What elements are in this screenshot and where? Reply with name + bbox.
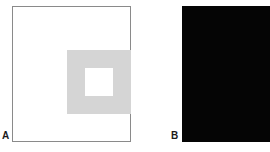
- panel-a-white-center-square: [85, 68, 113, 96]
- panel-a-label: A: [2, 131, 9, 141]
- panel-b-label: B: [171, 131, 178, 141]
- figure-container: A B: [0, 0, 270, 152]
- panel-b: [182, 6, 270, 142]
- panel-a: [12, 6, 131, 142]
